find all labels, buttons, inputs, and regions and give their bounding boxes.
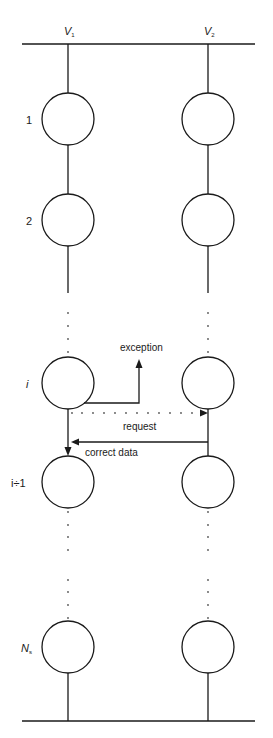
row-label-i: i (26, 378, 29, 390)
node-v2-1 (182, 93, 234, 145)
node-v1-1 (42, 93, 94, 145)
exception-label: exception (120, 342, 163, 353)
column-label-v1: V1 (64, 25, 75, 38)
request-label: request (123, 421, 157, 432)
node-v1-ns (42, 621, 94, 673)
correct-data-arrowhead-icon (71, 439, 79, 446)
down-arrowhead-icon (65, 447, 72, 456)
ellipsis-v2-upper (207, 312, 209, 353)
node-v2-2 (182, 194, 234, 246)
node-v1-i-plus-1 (42, 456, 94, 508)
ellipsis-v1-upper (67, 312, 69, 353)
request-dotted-line (71, 412, 193, 414)
diagram-canvas: V1 V2 1 2 i i÷1 Ns exception request cor… (0, 0, 273, 738)
correct-data-label: correct data (85, 447, 138, 458)
ellipsis-v2-lower (207, 511, 209, 619)
ellipsis-v1-lower (67, 511, 69, 619)
node-v1-i (42, 357, 94, 409)
node-v2-i-plus-1 (182, 456, 234, 508)
exception-arrow (84, 366, 139, 403)
row-label-2: 2 (26, 215, 32, 227)
node-v2-i (182, 357, 234, 409)
node-v1-2 (42, 194, 94, 246)
row-label-1: 1 (26, 114, 32, 126)
node-v2-ns (182, 621, 234, 673)
exception-arrowhead-icon (136, 359, 143, 368)
request-arrowhead-icon (200, 410, 208, 417)
column-label-v2: V2 (204, 25, 215, 38)
row-label-i-plus-1: i÷1 (11, 477, 26, 489)
row-label-ns: Ns (21, 642, 32, 655)
